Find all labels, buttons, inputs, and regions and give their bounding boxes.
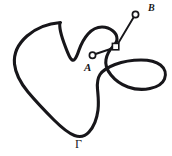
- crossing-point-marker: [112, 43, 118, 49]
- point-a-marker: [89, 52, 95, 58]
- point-b-label: B: [148, 3, 155, 13]
- curve-gamma-label: Γ: [75, 138, 82, 150]
- jordan-curve-drawing: [0, 0, 172, 156]
- point-a-label: A: [84, 62, 91, 73]
- point-b-marker: [132, 11, 138, 17]
- segment-crossing-to-b: [118, 18, 134, 44]
- figure-canvas: A B Γ: [0, 0, 172, 156]
- closed-curve-gamma: [14, 23, 165, 137]
